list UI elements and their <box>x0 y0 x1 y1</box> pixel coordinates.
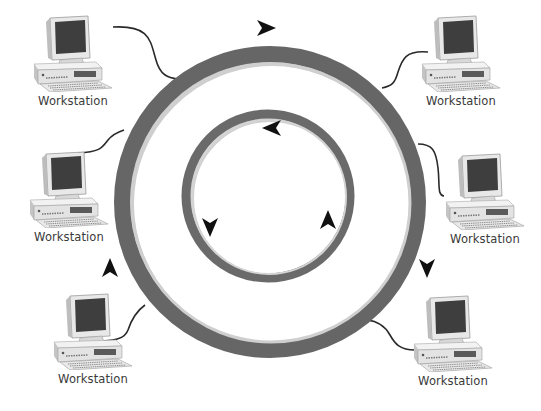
workstation-label: Workstation <box>24 230 114 244</box>
workstation-bottom-left: Workstation <box>48 290 138 390</box>
computer-icon <box>408 292 498 372</box>
outer-ring <box>122 54 418 350</box>
arrow-inner-top-icon <box>262 120 281 136</box>
workstation-mid-right: Workstation <box>440 150 530 250</box>
cable-top-left <box>113 27 178 79</box>
workstation-label: Workstation <box>408 374 498 388</box>
inner-ring <box>186 114 350 278</box>
arrow-inner-left-icon <box>202 218 218 237</box>
computer-icon <box>440 150 530 230</box>
computer-icon <box>28 12 118 92</box>
arrow-outer-left-icon <box>102 258 118 277</box>
computer-icon <box>24 148 114 228</box>
workstation-label: Workstation <box>48 372 138 386</box>
workstation-label: Workstation <box>416 94 506 108</box>
computer-icon <box>48 290 138 370</box>
workstation-bottom-right: Workstation <box>408 292 498 392</box>
arrow-outer-top-icon <box>257 20 276 36</box>
arrow-inner-right-icon <box>320 210 336 229</box>
workstation-label: Workstation <box>440 232 530 246</box>
workstation-top-right: Workstation <box>416 12 506 112</box>
workstation-mid-left: Workstation <box>24 148 114 248</box>
workstation-label: Workstation <box>28 94 118 108</box>
computer-icon <box>416 12 506 92</box>
workstation-top-left: Workstation <box>28 12 118 112</box>
token-ring-diagram: Workstation Workstation <box>0 0 541 411</box>
arrow-outer-right-icon <box>419 259 435 278</box>
